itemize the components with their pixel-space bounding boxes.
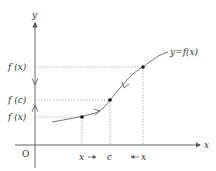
curve-label: y=f(x) [169,47,199,57]
x-label-center: c [107,152,112,162]
point-center [108,98,112,102]
y-label-middle: f (c) [7,95,27,105]
points [80,65,145,119]
function-curve [52,52,168,122]
point-upper [141,65,145,69]
x-axis-arrows [88,156,139,159]
origin-label: O [22,149,29,159]
diagram-canvas: y x O y=f(x) f (x) f (c) f (x) x c x [0,0,216,171]
x-arrow-right-icon [93,156,96,159]
axes [15,23,200,168]
y-label-lower: f (x) [7,112,27,122]
x-arrow-left-icon [131,156,134,159]
guide-lines [35,67,143,145]
point-lower [80,115,84,119]
y-label-upper: f (x) [7,62,27,72]
curve-arrow-down-icon [122,82,129,88]
x-label-right: x [141,152,146,162]
x-axis-label: x [204,140,209,150]
y-axis-label: y [31,10,38,20]
x-label-left: x [79,152,84,162]
